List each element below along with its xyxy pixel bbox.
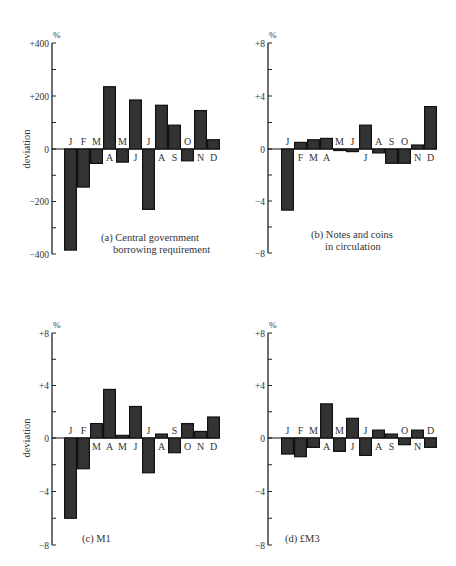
chart-caption: borrowing requirement — [113, 244, 210, 255]
y-tick-label: −8 — [255, 249, 265, 259]
bar — [91, 149, 103, 163]
month-label: D — [427, 152, 434, 163]
month-label: M — [335, 425, 344, 436]
month-label: F — [298, 425, 304, 436]
month-label: M — [92, 441, 101, 452]
month-label: O — [184, 136, 191, 147]
y-tick-label: −8 — [39, 541, 49, 551]
month-label: J — [351, 441, 355, 452]
bar — [386, 149, 398, 163]
month-label: O — [401, 136, 408, 147]
month-label: A — [106, 441, 114, 452]
y-tick-label: −400 — [29, 250, 49, 260]
y-tick-label: +4 — [255, 381, 265, 391]
month-label: M — [335, 136, 344, 147]
month-label: O — [184, 441, 191, 452]
bar — [195, 111, 207, 149]
bar — [143, 438, 155, 473]
month-label: S — [172, 425, 178, 436]
bar — [386, 434, 398, 438]
bar — [195, 431, 207, 438]
month-label: J — [134, 441, 138, 452]
bar — [399, 438, 411, 445]
y-tick-label: 0 — [44, 434, 49, 444]
bar — [412, 145, 424, 149]
chart-caption: in circulation — [325, 241, 381, 252]
bar — [373, 430, 385, 438]
month-label: J — [69, 425, 73, 436]
bar — [282, 438, 294, 454]
chart-b: −8−40+4+8%JFMAMJJASOND(b) Notes and coin… — [255, 30, 437, 259]
month-label: A — [323, 441, 331, 452]
y-axis-title: deviation — [21, 418, 32, 458]
bar — [399, 149, 411, 163]
month-label: O — [401, 425, 408, 436]
y-tick-label: 0 — [260, 145, 265, 155]
chart-caption: (a) Central government — [101, 232, 199, 244]
bar — [65, 438, 77, 518]
month-label: A — [158, 441, 166, 452]
month-label: D — [427, 425, 434, 436]
bar — [208, 140, 220, 149]
bar — [78, 438, 90, 469]
bar — [182, 424, 194, 438]
month-label: J — [147, 425, 151, 436]
bar — [295, 438, 307, 457]
bar — [360, 438, 372, 455]
y-tick-label: +4 — [39, 381, 49, 391]
y-tick-label: −4 — [255, 197, 265, 207]
y-tick-label: +8 — [255, 329, 265, 339]
month-label: M — [92, 136, 101, 147]
month-label: J — [286, 425, 290, 436]
bar — [208, 417, 220, 438]
figure-monthly-deviations: −400−2000+200+400%deviationJFMAMJJASOND(… — [0, 0, 456, 566]
y-tick-label: 0 — [260, 434, 265, 444]
bar — [156, 434, 168, 438]
unit-label: % — [53, 320, 61, 330]
bar — [156, 105, 168, 149]
y-tick-label: −4 — [255, 487, 265, 497]
chart-d: −8−40+4+8%JFMAMJJASOND(d) £M3 — [255, 320, 437, 551]
bar — [182, 149, 194, 161]
bar — [321, 138, 333, 149]
chart-caption: (c) M1 — [82, 533, 111, 545]
bar — [360, 125, 372, 149]
chart-caption: (b) Notes and coins — [311, 229, 393, 241]
bar — [321, 404, 333, 438]
y-tick-label: −4 — [39, 487, 49, 497]
bar — [282, 149, 294, 210]
bar — [373, 149, 385, 153]
bar — [91, 424, 103, 438]
bar — [143, 149, 155, 209]
bar — [104, 87, 116, 149]
bar — [308, 140, 320, 149]
y-tick-label: 0 — [44, 145, 49, 155]
month-label: M — [118, 441, 127, 452]
month-label: F — [81, 425, 87, 436]
bar — [104, 389, 116, 438]
month-label: A — [375, 441, 383, 452]
unit-label: % — [269, 30, 277, 40]
chart-caption: (d) £M3 — [285, 533, 320, 545]
bar — [425, 438, 437, 447]
month-label: S — [389, 136, 395, 147]
bar — [347, 418, 359, 438]
month-label: J — [351, 136, 355, 147]
month-label: M — [309, 152, 318, 163]
month-label: S — [172, 152, 178, 163]
bar — [65, 149, 77, 250]
y-tick-label: −200 — [29, 197, 49, 207]
month-label: D — [210, 441, 217, 452]
y-tick-label: +200 — [29, 92, 49, 102]
bar — [169, 125, 181, 149]
chart-c: −8−40+4+8%deviationJFMAMJJASOND(c) M1 — [21, 320, 220, 551]
month-label: J — [147, 136, 151, 147]
month-label: F — [298, 152, 304, 163]
unit-label: % — [53, 30, 61, 40]
chart-a: −400−2000+200+400%deviationJFMAMJJASOND(… — [21, 30, 220, 260]
bar — [78, 149, 90, 187]
month-label: M — [118, 136, 127, 147]
month-label: J — [364, 425, 368, 436]
bar — [130, 407, 142, 439]
y-tick-label: −8 — [255, 541, 265, 551]
